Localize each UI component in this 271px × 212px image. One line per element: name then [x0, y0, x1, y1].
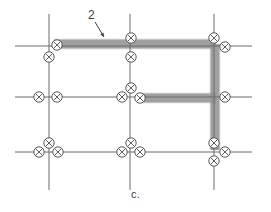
node-top-middle-above [126, 33, 136, 43]
node-bottom-middle-above [126, 138, 136, 148]
node-bottom-left-above [44, 138, 54, 148]
node-top-left-on-line [52, 40, 62, 50]
node-mid-left-east [52, 92, 62, 102]
node-top-right-side [220, 42, 230, 52]
callout-label-2: 2 [88, 8, 95, 22]
node-bottom-left-west [34, 147, 44, 157]
node-top-middle-below [126, 52, 136, 62]
node-bottom-right-above [209, 138, 219, 148]
node-bottom-right-east [220, 147, 230, 157]
node-mid-middle-east [135, 93, 145, 103]
node-bottom-middle-east [135, 147, 145, 157]
node-bottom-middle-west [117, 147, 127, 157]
node-mid-middle-west [117, 92, 127, 102]
node-top-right-above [209, 33, 219, 43]
figure-caption: c. [0, 188, 271, 200]
callout-arrow-group [95, 22, 104, 37]
node-mid-middle-above [126, 83, 136, 93]
node-bottom-left-east [53, 147, 63, 157]
grid-diagram [0, 0, 271, 212]
node-bottom-right-below [209, 156, 219, 166]
node-mid-left-west [34, 92, 44, 102]
figure-container: 2 c. [0, 0, 271, 212]
node-top-left-below [44, 52, 54, 62]
node-mid-right-side [220, 92, 230, 102]
